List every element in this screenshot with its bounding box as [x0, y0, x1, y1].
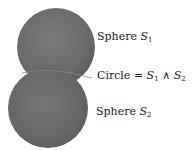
- wedge-operator: ∧: [162, 69, 170, 82]
- label-sphere-s2: Sphere S2: [96, 106, 151, 119]
- label-word: Sphere: [96, 105, 136, 118]
- label-sphere-s1: Sphere S1: [97, 31, 152, 44]
- label-word: Circle =: [97, 69, 143, 82]
- label-subscript: 2: [181, 75, 185, 83]
- label-symbol: S: [140, 30, 148, 43]
- label-subscript: 1: [148, 36, 152, 44]
- label-circle-intersection: Circle = S1 ∧ S2: [97, 70, 186, 83]
- label-subscript: 2: [147, 111, 151, 119]
- sphere-s2: [8, 68, 88, 148]
- label-symbol: S: [139, 105, 147, 118]
- label-subscript: 1: [154, 75, 158, 83]
- label-word: Sphere: [97, 30, 137, 43]
